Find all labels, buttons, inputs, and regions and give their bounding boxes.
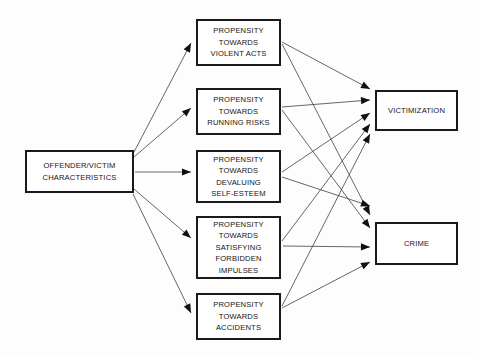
- arrowhead-icon: [182, 229, 191, 238]
- edge-running-risks-to-crime: [282, 110, 370, 228]
- node-label-line: CHARACTERISTICS: [43, 172, 117, 183]
- arrowhead-icon: [363, 134, 370, 144]
- node-label-line: RUNNING RISKS: [207, 117, 269, 128]
- edge-devaluing-to-crime: [282, 177, 370, 207]
- node-label-line: FORBIDDEN: [215, 253, 261, 264]
- node-propensity-satisfying-forbidden-impulses: PROPENSITYTOWARDSSATISFYINGFORBIDDENIMPU…: [196, 216, 281, 279]
- edge-violent-acts-to-victimization: [282, 42, 370, 89]
- node-label-line: CRIME: [404, 238, 429, 249]
- node-label-line: VICTIMIZATION: [388, 105, 445, 116]
- arrowhead-icon: [182, 168, 191, 175]
- node-offender-victim-characteristics: OFFENDER/VICTIMCHARACTERISTICS: [25, 150, 134, 193]
- arrowhead-icon: [360, 200, 370, 207]
- node-label-line: SELF-ESTEEM: [211, 188, 265, 199]
- arrowhead-icon: [360, 262, 370, 269]
- node-label-line: PROPENSITY: [213, 219, 263, 230]
- node-label-line: PROPENSITY: [213, 299, 263, 310]
- edge-src-to-violent-acts: [134, 43, 191, 152]
- node-label-line: TOWARDS: [219, 37, 258, 48]
- node-propensity-devaluing-self-esteem: PROPENSITYTOWARDSDEVALUINGSELF-ESTEEM: [196, 150, 281, 203]
- node-label-line: VIOLENT ACTS: [210, 48, 266, 59]
- edge-accidents-to-victimization: [282, 134, 370, 306]
- edge-src-to-devaluing: [135, 168, 191, 175]
- node-label-line: TOWARDS: [219, 230, 258, 241]
- node-label-line: TOWARDS: [219, 165, 258, 176]
- node-label-line: PROPENSITY: [213, 25, 263, 36]
- edge-impulses-to-victimization: [282, 124, 370, 241]
- edge-violent-acts-to-crime: [282, 44, 370, 215]
- edge-accidents-to-crime: [282, 262, 370, 308]
- edge-running-risks-to-victimization: [282, 97, 370, 107]
- node-label-line: OFFENDER/VICTIM: [44, 160, 116, 171]
- edge-src-to-accidents: [133, 194, 191, 313]
- node-label-line: TOWARDS: [219, 106, 258, 117]
- arrowhead-icon: [361, 97, 370, 104]
- node-propensity-running-risks: PROPENSITYTOWARDSRUNNING RISKS: [196, 88, 281, 135]
- arrowhead-icon: [184, 43, 191, 53]
- arrowhead-icon: [184, 303, 191, 313]
- node-propensity-violent-acts: PROPENSITYTOWARDSVIOLENT ACTS: [196, 19, 281, 66]
- arrowhead-icon: [362, 124, 370, 133]
- edge-devaluing-to-victimization: [282, 113, 370, 172]
- arrowhead-icon: [362, 219, 370, 228]
- node-label-line: IMPULSES: [219, 265, 259, 276]
- node-label-line: TOWARDS: [219, 311, 258, 322]
- arrowhead-icon: [182, 108, 191, 117]
- arrowhead-icon: [361, 243, 370, 250]
- node-victimization: VICTIMIZATION: [375, 90, 458, 131]
- node-label-line: PROPENSITY: [213, 154, 263, 165]
- arrowhead-icon: [361, 113, 370, 121]
- node-crime: CRIME: [375, 222, 458, 265]
- arrowhead-icon: [363, 205, 370, 215]
- edge-src-to-running-risks: [134, 108, 191, 157]
- node-label-line: PROPENSITY: [213, 94, 263, 105]
- node-label-line: DEVALUING: [216, 177, 261, 188]
- arrowhead-icon: [360, 82, 370, 89]
- diagram-canvas: OFFENDER/VICTIMCHARACTERISTICSPROPENSITY…: [0, 0, 479, 358]
- node-label-line: SATISFYING: [215, 242, 261, 253]
- node-label-line: ACCIDENTS: [216, 322, 261, 333]
- edge-impulses-to-crime: [283, 243, 370, 250]
- node-propensity-accidents: PROPENSITYTOWARDSACCIDENTS: [196, 293, 281, 340]
